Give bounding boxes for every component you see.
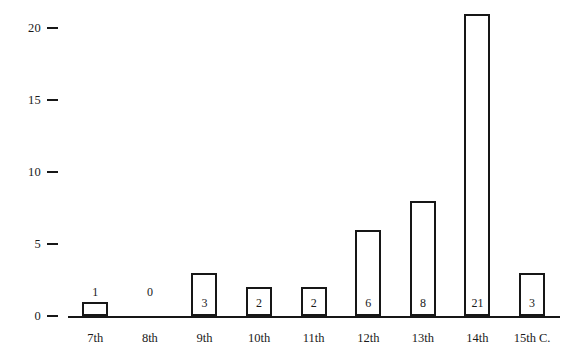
bar: 6: [355, 230, 381, 316]
x-axis-tick-label: 12th: [341, 330, 396, 346]
x-axis-tick-label: 11th: [286, 330, 341, 346]
bars-group: 1032268213: [0, 0, 578, 357]
bar: 3: [519, 273, 545, 316]
x-axis-tick-label: 14th: [450, 330, 505, 346]
x-axis-tick-label: 9th: [177, 330, 232, 346]
bar-slot: 1: [68, 296, 123, 316]
x-axis-tick-label: 7th: [68, 330, 123, 346]
x-axis-tick-label: 13th: [396, 330, 451, 346]
bar-chart: 05101520 1032268213 7th8th9th10th11th12t…: [0, 0, 578, 357]
bar-slot: 6: [341, 230, 396, 316]
bar: 2: [301, 287, 327, 316]
bar-value-label: 6: [357, 296, 379, 310]
bar-value-label: 0: [123, 285, 178, 299]
bar-value-label: 8: [412, 296, 434, 310]
bar-value-label: 3: [521, 296, 543, 310]
bar-value-label: 2: [303, 296, 325, 310]
x-axis-tick-label: 10th: [232, 330, 287, 346]
bar-value-label: 2: [248, 296, 270, 310]
bar-value-label: 1: [68, 285, 123, 299]
bar: 2: [246, 287, 272, 316]
x-axis-tick-label: 8th: [123, 330, 178, 346]
bar: 8: [410, 201, 436, 316]
bar-value-label: 3: [193, 296, 215, 310]
bar-value-label: 21: [466, 296, 488, 310]
bar-slot: 0: [123, 296, 178, 316]
bar: 21: [464, 14, 490, 316]
bar: 3: [191, 273, 217, 316]
bar-slot: 2: [286, 287, 341, 316]
bar-slot: 21: [450, 14, 505, 316]
x-axis-tick-label: 15th C.: [505, 330, 560, 346]
bar: [82, 302, 108, 316]
bar-slot: 2: [232, 287, 287, 316]
bar-slot: 8: [396, 201, 451, 316]
bar-slot: 3: [177, 273, 232, 316]
bar-slot: 3: [505, 273, 560, 316]
